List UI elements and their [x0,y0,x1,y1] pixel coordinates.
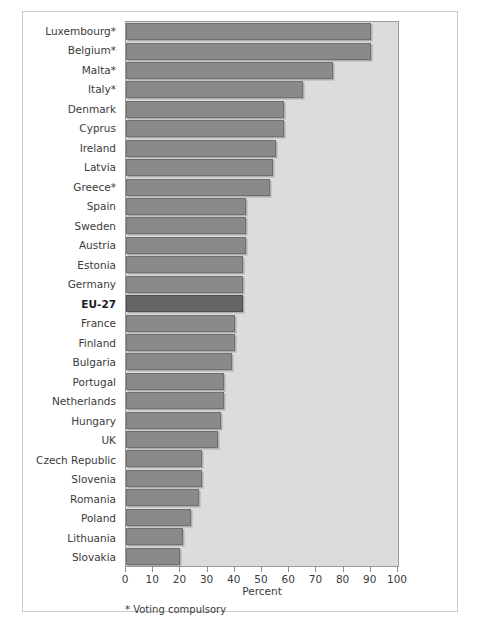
bar-row [126,275,398,293]
category-label: Italy* [23,80,121,98]
axis-tick [179,567,180,572]
bar [126,315,235,332]
category-label: Malta* [23,61,121,79]
category-label: Cyprus [23,119,121,137]
axis-tick-label: 70 [309,573,322,585]
bar-series [126,22,398,566]
category-label: Austria [23,236,121,254]
axis-tick [370,567,371,572]
category-label: Slovenia [23,470,121,488]
axis-tick [343,567,344,572]
category-label: Luxembourg* [23,22,121,40]
axis-tick-label: 20 [173,573,186,585]
bar-row [126,411,398,429]
axis-tick [234,567,235,572]
bar [126,548,180,565]
axis-tick-label: 80 [336,573,349,585]
axis-tick [152,567,153,572]
axis-tick [125,567,126,572]
category-label: Lithuania [23,529,121,547]
bar-row [126,62,398,80]
bar [126,43,371,60]
bar-row [126,528,398,546]
bar-row [126,120,398,138]
category-label: Greece* [23,178,121,196]
bar [126,23,371,40]
axis-tick-label: 0 [122,573,129,585]
bar-row [126,100,398,118]
bar [126,509,191,526]
bar-row [126,159,398,177]
chart-footnote: * Voting compulsory [125,604,226,615]
bar-row [126,353,398,371]
bar [126,101,284,118]
bar [126,450,202,467]
bar-row [126,314,398,332]
category-label: Czech Republic [23,451,121,469]
bar-row [126,81,398,99]
category-label: Belgium* [23,41,121,59]
bar [126,198,246,215]
category-label: Portugal [23,373,121,391]
bar [126,431,218,448]
bar [126,412,221,429]
bar-row [126,431,398,449]
bar-row [126,236,398,254]
category-label: Hungary [23,412,121,430]
bar [126,237,246,254]
category-label: Germany [23,275,121,293]
category-label: Poland [23,509,121,527]
bar-row [126,547,398,565]
x-axis-title: Percent [125,585,399,597]
bar [126,528,183,545]
axis-tick-label: 10 [146,573,159,585]
bar-row [126,508,398,526]
axis-tick-label: 90 [363,573,376,585]
bar [126,62,333,79]
axis-tick [207,567,208,572]
bar [126,276,243,293]
bar-row [126,139,398,157]
category-label: Latvia [23,158,121,176]
plot-area [125,21,399,567]
category-label: Denmark [23,100,121,118]
bar-row [126,23,398,41]
bar-row [126,489,398,507]
bar [126,217,246,234]
bar [126,159,273,176]
bar-row [126,450,398,468]
bar-row [126,217,398,235]
bar-row [126,42,398,60]
category-label: UK [23,431,121,449]
category-axis-labels: Luxembourg*Belgium*Malta*Italy*DenmarkCy… [23,21,121,567]
bar [126,470,202,487]
bar [126,373,224,390]
bar-row [126,372,398,390]
axis-tick-label: 50 [254,573,267,585]
category-label: Bulgaria [23,353,121,371]
axis-tick-label: 100 [387,573,407,585]
category-label: Slovakia [23,548,121,566]
axis-tick-label: 40 [227,573,240,585]
axis-tick-label: 60 [282,573,295,585]
axis-tick [397,567,398,572]
bar [126,81,303,98]
axis-tick-label: 30 [200,573,213,585]
axis-tick [261,567,262,572]
bar-row [126,333,398,351]
bar-row [126,198,398,216]
category-label: Ireland [23,139,121,157]
bar [126,179,270,196]
category-label: Finland [23,334,121,352]
category-label: EU-27 [23,295,121,313]
bar [126,120,284,137]
bar-row [126,469,398,487]
category-label: Spain [23,197,121,215]
category-label: Sweden [23,217,121,235]
bar [126,392,224,409]
category-label: France [23,314,121,332]
bar [126,353,232,370]
chart-figure: Luxembourg*Belgium*Malta*Italy*DenmarkCy… [22,11,458,612]
category-label: Romania [23,490,121,508]
bar-row [126,295,398,313]
